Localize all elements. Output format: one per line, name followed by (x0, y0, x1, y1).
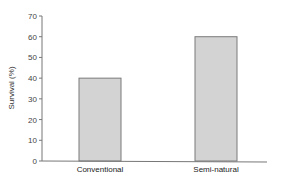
y-tick-label: 30 (28, 95, 37, 104)
y-tick-label: 70 (28, 12, 37, 21)
y-tick-label: 50 (28, 53, 37, 62)
bars (79, 37, 237, 161)
bar-conventional (79, 78, 121, 161)
y-axis-title: Survival (%) (7, 66, 16, 109)
bar-semi-natural (195, 37, 237, 161)
x-axis: ConventionalSemi-natural (42, 161, 267, 174)
y-axis: 010203040506070 (28, 12, 42, 166)
y-tick-label: 10 (28, 136, 37, 145)
y-tick-label: 60 (28, 33, 37, 42)
bar-chart: Survival (%) 010203040506070 Conventiona… (0, 0, 281, 179)
y-tick-label: 20 (28, 116, 37, 125)
y-tick-label: 0 (33, 157, 38, 166)
x-category-label: Conventional (77, 165, 124, 174)
x-category-label: Semi-natural (193, 165, 239, 174)
y-tick-label: 40 (28, 74, 37, 83)
